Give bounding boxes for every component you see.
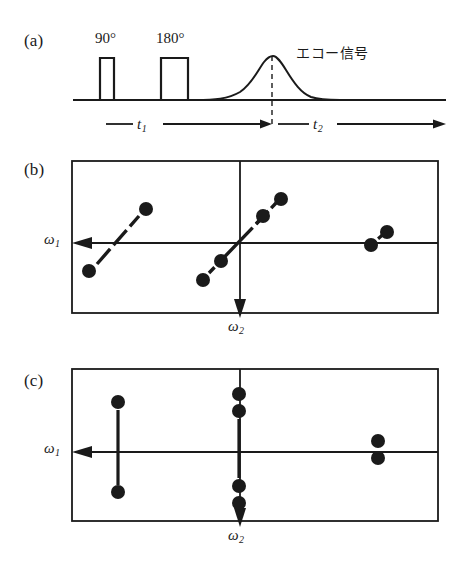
- panel-b-multiplet-right: [364, 225, 394, 252]
- spectrum-peak-dot: [232, 387, 246, 401]
- spectrum-peak-dot: [232, 496, 246, 510]
- panel-b-omega1-label: ω1: [44, 231, 60, 249]
- spectrum-peak-dot: [364, 238, 378, 252]
- spectrum-peak-dot: [256, 209, 270, 223]
- spectrum-peak-dot: [274, 192, 288, 206]
- omega1-base: ω: [44, 231, 55, 247]
- panel-label-b: (b): [24, 160, 44, 180]
- tilt-connector: [97, 216, 139, 264]
- spectrum-peak-dot: [232, 404, 246, 418]
- spectrum-peak-dot: [111, 485, 125, 499]
- spectrum-peak-dot: [111, 395, 125, 409]
- panel-b-omega1-arrowhead: [72, 237, 92, 249]
- panel-b-multiplet-center-lower: [196, 221, 259, 287]
- spectrum-peak-dot: [371, 434, 385, 448]
- omega1-base: ω: [44, 440, 55, 456]
- omega1-sub: 1: [55, 238, 60, 249]
- spectrum-peak-dot: [380, 225, 394, 239]
- omega2-base: ω: [228, 318, 239, 334]
- nmr-figure: (a) 90° 180° エコー信号 t1 t2: [0, 0, 468, 563]
- panel-c-omega1-label: ω1: [44, 440, 60, 458]
- omega1-sub: 1: [55, 447, 60, 458]
- panel-b-drawing: [72, 161, 438, 318]
- spectrum-peak-dot: [82, 264, 96, 278]
- panel-c-multiplet-center: [232, 387, 246, 510]
- panel-c-multiplet-left: [111, 395, 125, 499]
- omega2-base: ω: [228, 527, 239, 543]
- spectrum-peak-dot: [139, 202, 153, 216]
- spectrum-peak-dot: [232, 479, 246, 493]
- spectrum-peak-dot: [371, 451, 385, 465]
- panel-b-omega2-arrowhead: [234, 299, 246, 318]
- panel-c-omega2-label: ω2: [228, 527, 244, 545]
- t1-arrowhead: [260, 120, 272, 129]
- t2-arrowhead: [433, 120, 446, 129]
- echo-signal-envelope: [196, 56, 340, 100]
- panel-label-c: (c): [24, 371, 43, 391]
- panel-b-omega2-label: ω2: [228, 318, 244, 336]
- spectrum-peak-dot: [214, 254, 228, 268]
- spectrum-peak-dot: [196, 273, 210, 287]
- panel-c-multiplet-right: [371, 434, 385, 465]
- panel-b-multiplet-left: [82, 202, 153, 278]
- panel-c-omega2-arrowhead: [234, 508, 246, 527]
- omega2-sub: 2: [239, 325, 244, 336]
- panel-b-multiplet-center-upper: [256, 192, 288, 224]
- pulse-180-shape: [161, 58, 188, 100]
- panel-c-omega1-arrowhead: [72, 446, 92, 458]
- omega2-sub: 2: [239, 534, 244, 545]
- panel-a-drawing: [73, 56, 446, 129]
- figure-canvas: [0, 0, 468, 563]
- panel-c-drawing: [72, 369, 438, 527]
- pulse-90-shape: [100, 58, 114, 100]
